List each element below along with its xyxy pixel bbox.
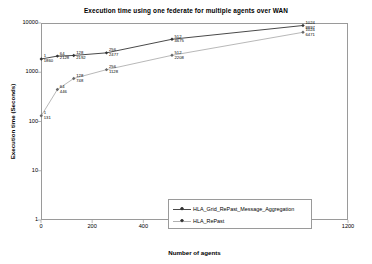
legend-label-1: HLA_RePast	[191, 218, 224, 224]
chart-figure: Execution time using one federate for mu…	[0, 0, 372, 264]
legend-item-1[interactable]: HLA_RePast	[173, 215, 307, 227]
legend-marker-diamond-icon	[173, 205, 191, 213]
data-point-label: 1131	[44, 111, 51, 120]
data-point-label: 1282192	[76, 51, 85, 60]
data-point-label: 2561128	[109, 65, 118, 74]
y-axis-title: Execution time (Seconds)	[9, 57, 16, 187]
x-tick-label: 1200	[333, 224, 363, 230]
data-point-label: 11860	[44, 54, 53, 63]
x-tick-label: 200	[77, 224, 107, 230]
data-point-label: 642128	[60, 52, 69, 61]
chart-legend: HLA_Grid_RePast_Message_Aggregation HLA_…	[168, 199, 312, 229]
data-point-label: 5122208	[174, 51, 183, 60]
x-axis-title: Number of agents	[41, 249, 348, 256]
legend-marker-diamond-icon	[173, 217, 191, 225]
x-tick-label: 400	[128, 224, 158, 230]
data-point-label: 128748	[76, 74, 83, 83]
data-point-label: 2562477	[109, 48, 118, 57]
data-point-label: 5124675	[174, 35, 183, 44]
legend-label-0: HLA_Grid_RePast_Message_Aggregation	[191, 206, 294, 212]
x-tick-label: 0	[26, 224, 56, 230]
data-point-label: 64446	[60, 85, 67, 94]
legend-item-0[interactable]: HLA_Grid_RePast_Message_Aggregation	[173, 203, 307, 215]
data-point-label: 10246471	[305, 28, 314, 37]
